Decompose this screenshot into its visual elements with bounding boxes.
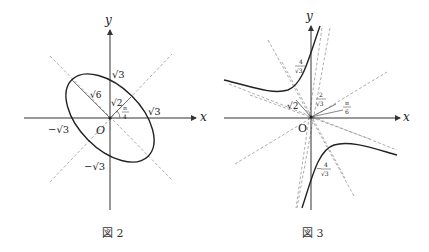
hyperbola-lower-branch xyxy=(302,143,397,208)
angle-denominator: 6 xyxy=(345,108,349,115)
origin-dot xyxy=(108,116,111,119)
top-intercept-denominator: √3 xyxy=(295,67,303,74)
bottom-intercept-numerator: 4 xyxy=(324,161,328,168)
origin-label: O xyxy=(298,122,307,135)
pi6-ray xyxy=(311,110,343,117)
figure-3-caption: 図 3 xyxy=(302,224,324,240)
neg-sqrt3-x-label: −√3 xyxy=(48,124,69,135)
origin-dot xyxy=(309,115,312,118)
angle-arc xyxy=(117,111,120,118)
y-axis-label: y xyxy=(305,9,313,23)
sqrt2-label: √2 xyxy=(287,101,298,111)
neg-sqrt3-y-label: −√3 xyxy=(84,161,105,172)
y-axis-label: y xyxy=(104,13,112,27)
sqrt3-y-label: √3 xyxy=(112,69,125,80)
angle-numerator: π xyxy=(123,104,127,111)
figure-2-caption: 図 2 xyxy=(102,224,124,240)
top-intercept-numerator: 4 xyxy=(299,58,303,65)
sqrt3-x-label: √3 xyxy=(148,106,161,117)
sqrt6-label: √6 xyxy=(90,90,102,100)
diagram-canvas: x y O √3 √3 −√3 −√3 √6 √2 π 4 x y xyxy=(0,0,429,252)
figure-2: x y O √3 √3 −√3 −√3 √6 √2 π 4 xyxy=(24,13,207,210)
x-axis-label: x xyxy=(403,110,410,124)
angle-denominator: 4 xyxy=(123,113,127,120)
two-numerator: 2 xyxy=(319,91,323,98)
x-axis-label: x xyxy=(200,110,207,124)
origin-label: O xyxy=(96,124,105,137)
angle-numerator: π xyxy=(345,99,349,106)
bottom-intercept-denominator: √3 xyxy=(321,170,329,177)
sqrt2-label: √2 xyxy=(111,98,122,108)
two-denominator: √3 xyxy=(316,100,324,107)
hyperbola-upper-branch xyxy=(224,26,320,91)
figure-3: x y O 4 √3 √2 2 √3 π 6 − 4 √3 xyxy=(224,9,410,210)
